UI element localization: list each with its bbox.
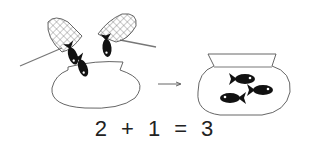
equation-addend-b: 1 xyxy=(148,116,162,141)
equation-equals: = xyxy=(174,116,189,141)
equation-result: 3 xyxy=(201,116,215,141)
equation-plus: + xyxy=(121,116,136,141)
right-arrow-icon xyxy=(158,82,181,86)
equation: 2+1=3 xyxy=(0,116,310,142)
fish-icon xyxy=(220,92,246,104)
right-fishbowl xyxy=(198,54,290,115)
equation-addend-a: 2 xyxy=(95,116,109,141)
fish-icon xyxy=(229,73,255,85)
left-fishbowl xyxy=(52,62,140,109)
fish-icon xyxy=(247,84,273,96)
